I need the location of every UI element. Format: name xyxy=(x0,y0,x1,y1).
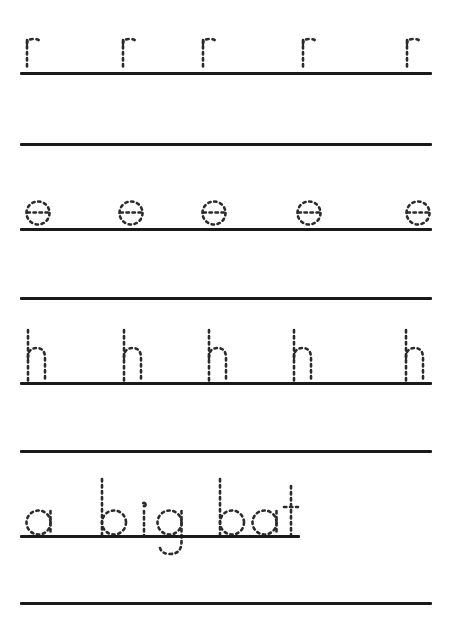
baseline-rule xyxy=(20,535,300,538)
trace-letter-t xyxy=(283,484,303,540)
baseline-rule xyxy=(20,382,432,385)
trace-letter-e xyxy=(24,190,52,230)
glyph-strip-r xyxy=(0,36,453,96)
trace-letter-r xyxy=(24,36,46,72)
baseline-rule xyxy=(20,143,432,146)
trace-letter-h xyxy=(205,328,233,386)
trace-letter-r xyxy=(120,36,142,72)
glyph-strip-h xyxy=(0,328,453,388)
trace-letter-e xyxy=(404,190,432,230)
baseline-rule xyxy=(20,297,432,300)
trace-letter-h xyxy=(402,328,430,386)
glyph-strip-e xyxy=(0,190,453,250)
trace-letter-r xyxy=(404,36,426,72)
trace-letter-e xyxy=(200,190,228,230)
trace-letter-h xyxy=(24,328,52,386)
trace-letter-e xyxy=(295,190,323,230)
trace-letter-r xyxy=(200,36,222,72)
tracing-worksheet-page xyxy=(0,0,453,622)
baseline-rule xyxy=(20,450,432,453)
baseline-rule xyxy=(20,228,432,231)
trace-letter-b xyxy=(215,476,247,542)
trace-letter-b xyxy=(97,476,129,542)
trace-letter-h xyxy=(290,328,318,386)
baseline-rule xyxy=(20,602,432,605)
glyph-strip-word xyxy=(0,480,453,560)
trace-letter-r xyxy=(300,36,322,72)
baseline-rule xyxy=(20,72,432,75)
trace-letter-e xyxy=(117,190,145,230)
trace-letter-h xyxy=(120,328,148,386)
trace-letter-g xyxy=(155,502,187,564)
